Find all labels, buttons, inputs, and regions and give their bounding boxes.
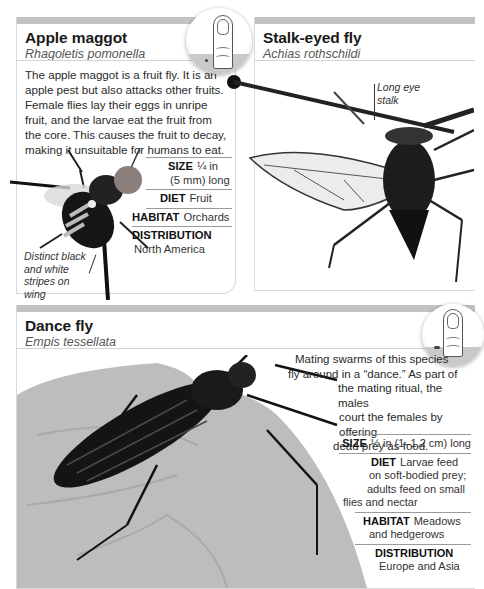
fact-label: SIZE (168, 160, 193, 172)
fact-value: flies and nectar (343, 496, 471, 510)
mini-fly-icon (434, 346, 440, 349)
dance-fly-facts: SIZE½ in (1–1.2 cm) long DIETLarvae feed… (345, 434, 471, 576)
fact-value: Fruit (189, 192, 211, 204)
card-header-bar (17, 305, 475, 312)
thumb-crease (216, 47, 230, 52)
stalk-eyed-fly-image (224, 70, 474, 290)
card-title: Apple maggot (25, 29, 145, 47)
fact-diet: DIETFruit (146, 190, 232, 209)
fact-value: North America (132, 243, 205, 255)
fact-label: DIET (371, 456, 396, 468)
card-header-bar (255, 17, 475, 24)
fact-label: DISTRIBUTION (132, 229, 212, 241)
fact-value: Europe and Asia (375, 560, 471, 574)
fact-value: (5 mm) long (168, 174, 230, 186)
fact-value: Meadows (414, 515, 461, 527)
divider (255, 60, 475, 61)
card-title: Stalk-eyed fly (263, 29, 362, 47)
annotation-leader-line (374, 84, 375, 120)
fact-value: ½ in (1–1.2 cm) long (371, 437, 471, 449)
thumb-crease (216, 55, 230, 60)
fact-habitat: HABITATMeadows and hedgerows (355, 513, 471, 545)
fact-size: SIZE¼ in (5 mm) long (146, 157, 232, 190)
card-heading: Dance fly Empis tessellata (25, 317, 116, 350)
thumbnail-nail (217, 19, 229, 35)
thumb-icon (443, 309, 463, 357)
fact-habitat: HABITATOrchards (132, 209, 232, 228)
wing-annotation: Distinct black and white stripes on wing (24, 250, 94, 300)
fact-size: SIZE½ in (1–1.2 cm) long (339, 434, 471, 454)
fact-label: HABITAT (363, 515, 410, 527)
fact-label: DIET (160, 192, 185, 204)
fact-distribution: DISTRIBUTION Europe and Asia (375, 545, 471, 576)
fact-value: adults feed on small (355, 483, 471, 497)
thumb-scale-icon (186, 8, 252, 74)
apple-maggot-facts: SIZE¼ in (5 mm) long DIETFruit HABITATOr… (146, 157, 232, 258)
card-heading: Stalk-eyed fly Achias rothschildi (263, 29, 362, 62)
card-heading: Apple maggot Rhagoletis pomonella (25, 29, 145, 62)
fact-value: ¼ in (197, 160, 218, 172)
thumb-crease (446, 345, 460, 350)
description-line: the mating ritual, the males (200, 381, 470, 410)
fact-label: DISTRIBUTION (375, 547, 453, 559)
fact-label: SIZE (342, 437, 366, 449)
fact-value: on soft-bodied prey; (355, 469, 471, 483)
fact-value: Larvae feed (400, 456, 458, 468)
thumb-icon (213, 15, 233, 69)
eye-stalk-annotation: Long eye stalk (377, 81, 421, 106)
description-line: Mating swarms of this species (200, 352, 470, 367)
fact-diet: DIETLarvae feed on soft-bodied prey; adu… (355, 454, 471, 513)
card-title: Dance fly (25, 317, 116, 335)
thumbnail-nail (447, 313, 459, 329)
description-line: fly around in a “dance.” As part of (200, 367, 470, 382)
fact-label: HABITAT (132, 211, 179, 223)
fact-distribution: DISTRIBUTION North America (132, 227, 232, 258)
mini-fly-icon (205, 59, 208, 62)
thumb-crease (446, 337, 460, 342)
divider (17, 348, 475, 349)
fact-value: and hedgerows (355, 528, 471, 542)
fact-value: Orchards (183, 211, 229, 223)
